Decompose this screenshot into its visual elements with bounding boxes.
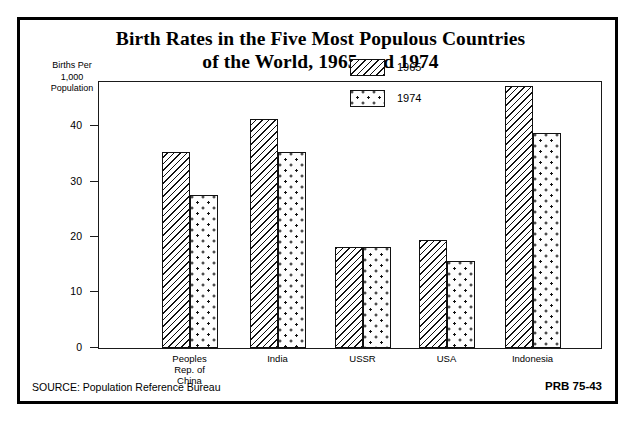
bar-1974-ussr — [363, 247, 391, 348]
bar-1974-india — [278, 152, 306, 348]
y-tick-mark — [90, 236, 99, 237]
bar-1974-peoplesrepofchina — [190, 195, 218, 347]
x-axis-label-usa: USA — [402, 353, 492, 364]
bar-1965-indonesia — [505, 86, 533, 347]
bar-1965-peoplesrepofchina — [162, 152, 190, 347]
y-axis-label-line-1: Births Per — [34, 60, 110, 72]
y-tick-label: 10 — [50, 286, 82, 297]
legend: 1965 1974 — [350, 56, 421, 118]
x-axis-label-line: India — [233, 353, 323, 364]
bar-1974-indonesia — [533, 133, 561, 348]
credit-note: PRB 75-43 — [545, 380, 602, 392]
legend-swatch-1965 — [350, 59, 385, 76]
x-axis-label-ussr: USSR — [318, 353, 408, 364]
source-note: SOURCE: Population Reference Bureau — [32, 382, 221, 393]
bar-1965-ussr — [335, 247, 363, 348]
x-axis-label-line: Rep. of — [145, 364, 235, 375]
legend-swatch-1974 — [350, 90, 385, 107]
chart-poster: Birth Rates in the Five Most Populous Co… — [17, 17, 618, 404]
x-axis-label-india: India — [233, 353, 323, 364]
y-tick-label: 20 — [50, 231, 82, 242]
bars-container — [100, 82, 601, 348]
y-tick-label: 0 — [50, 342, 82, 353]
y-tick-mark — [90, 125, 99, 126]
legend-label-1974: 1974 — [397, 93, 421, 104]
y-tick-mark — [90, 291, 99, 292]
x-axis-label-line: Peoples — [145, 353, 235, 364]
legend-item-1974: 1974 — [350, 87, 421, 109]
title-line-1: Birth Rates in the Five Most Populous Co… — [20, 27, 621, 50]
legend-item-1965: 1965 — [350, 56, 421, 78]
x-axis-label-line: Indonesia — [488, 353, 578, 364]
bar-1974-usa — [447, 261, 475, 347]
legend-label-1965: 1965 — [397, 62, 421, 73]
title-line-2: of the World, 1965 and 1974 — [20, 50, 621, 73]
y-tick-mark — [90, 347, 99, 348]
x-axis-label-indonesia: Indonesia — [488, 353, 578, 364]
y-tick-label: 40 — [50, 120, 82, 131]
bar-1965-usa — [419, 240, 447, 347]
page-title: Birth Rates in the Five Most Populous Co… — [20, 27, 621, 73]
y-tick-label: 30 — [50, 176, 82, 187]
bar-1965-india — [250, 119, 278, 348]
y-tick-mark — [90, 181, 99, 182]
x-axis-label-line: USA — [402, 353, 492, 364]
x-axis-label-line: USSR — [318, 353, 408, 364]
